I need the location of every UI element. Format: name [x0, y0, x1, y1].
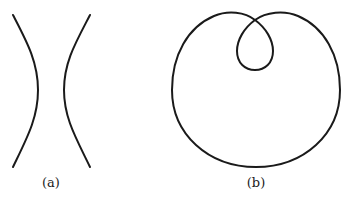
panel-b-limacon — [172, 13, 340, 167]
panel-a-label: (a) — [42, 175, 60, 190]
limacon-outer-loop — [172, 13, 340, 167]
panel-b-label: (b) — [247, 175, 265, 190]
panel-a-hyperbola — [13, 15, 90, 167]
hyperbola-right-branch — [64, 15, 90, 167]
hyperbola-left-branch — [13, 15, 38, 167]
figure-canvas — [0, 0, 346, 201]
limacon-inner-loop — [237, 20, 273, 70]
